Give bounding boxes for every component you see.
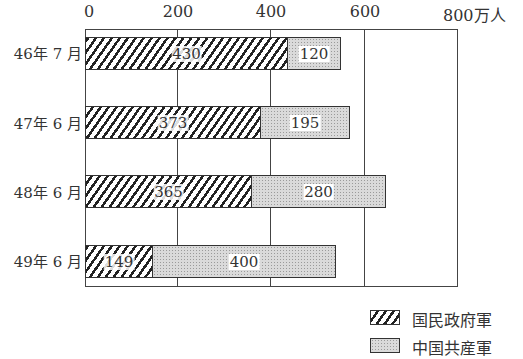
hatch-swatch-icon bbox=[370, 310, 400, 325]
dots-swatch-icon bbox=[370, 338, 400, 353]
value-label: 430 bbox=[171, 46, 202, 62]
bar-segment-government: 430 bbox=[86, 38, 287, 69]
bar-row-47-6: 373 195 bbox=[85, 106, 350, 139]
bar-row-48-6: 365 280 bbox=[85, 175, 386, 208]
x-tick-800: 800万人 bbox=[443, 2, 506, 26]
category-label: 48年 6 月 bbox=[0, 181, 82, 202]
bar-row-49-6: 149 400 bbox=[85, 245, 336, 278]
x-tick-200: 200 bbox=[163, 2, 194, 21]
category-label: 47年 6 月 bbox=[0, 112, 82, 133]
value-label: 280 bbox=[303, 184, 334, 200]
legend-label: 中国共産軍 bbox=[412, 335, 492, 359]
bar-segment-communist: 400 bbox=[152, 246, 335, 277]
bar-segment-communist: 195 bbox=[260, 107, 349, 138]
gridline-600 bbox=[364, 29, 365, 287]
x-tick-400: 400 bbox=[256, 2, 287, 21]
bar-segment-government: 149 bbox=[86, 246, 152, 277]
value-label: 400 bbox=[229, 254, 260, 270]
bar-segment-communist: 120 bbox=[287, 38, 340, 69]
value-label: 149 bbox=[104, 254, 135, 270]
bar-row-46-7: 430 120 bbox=[85, 37, 341, 70]
value-label: 195 bbox=[290, 115, 321, 131]
x-tick-0: 0 bbox=[84, 2, 94, 21]
bar-segment-government: 365 bbox=[86, 176, 251, 207]
value-label: 365 bbox=[153, 184, 184, 200]
legend-label: 国民政府軍 bbox=[412, 307, 492, 331]
bar-segment-government: 373 bbox=[86, 107, 260, 138]
value-label: 120 bbox=[299, 46, 330, 62]
value-label: 373 bbox=[158, 115, 189, 131]
category-label: 49年 6 月 bbox=[0, 250, 82, 271]
category-label: 46年 7 月 bbox=[0, 42, 82, 63]
x-tick-600: 600 bbox=[350, 2, 381, 21]
bar-segment-communist: 280 bbox=[251, 176, 385, 207]
